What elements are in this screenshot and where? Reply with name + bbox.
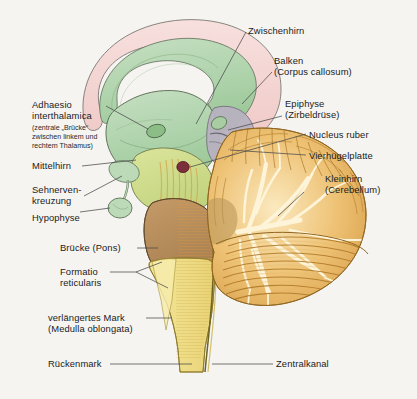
label-epiphyse-line1: Epiphyse <box>285 98 324 109</box>
label-epiphyse-line2: (Zirbeldrüse) <box>285 109 339 120</box>
label-nucleus-ruber: Nucleus ruber <box>309 129 369 140</box>
label-sehnerven-line1: Sehnerven- <box>32 184 81 195</box>
label-kleinhirn-line1: Kleinhirn <box>325 173 362 184</box>
label-formatio-line2: reticularis <box>60 277 101 288</box>
label-zentralkanal: Zentralkanal <box>276 358 329 369</box>
label-rueckenmark: Rückenmark <box>48 358 102 369</box>
label-adhaesio-sub3: rechtem Thalamus) <box>32 142 93 151</box>
label-zwischenhirn: Zwischenhirn <box>248 25 304 36</box>
label-balken-line1: Balken <box>274 55 303 66</box>
label-kleinhirn-line2: (Cerebellum) <box>325 184 380 195</box>
nucleus-ruber-structure <box>177 161 189 172</box>
label-mittelhirn: Mittelhirn <box>32 160 71 171</box>
hypophyse-structure <box>108 198 132 218</box>
label-formatio-line1: Formatio <box>60 266 98 277</box>
label-medulla-line2: (Medulla oblongata) <box>48 323 133 334</box>
label-bruecke-pons: Brücke (Pons) <box>60 242 121 253</box>
label-medulla-line1: verlängertes Mark <box>48 312 125 323</box>
label-balken-line2: (Corpus callosum) <box>274 66 352 77</box>
label-adhaesio-sub2: zwischen linkem und <box>32 133 97 142</box>
label-hypophyse: Hypophyse <box>32 212 80 223</box>
label-vierhuegelplatte: Vierhügelplatte <box>309 150 373 161</box>
label-sehnerven-line2: kreuzung <box>32 195 71 206</box>
label-adhaesio-line2: interthalamica <box>32 110 92 121</box>
label-adhaesio-sub1: (zentrale „Brücke“ <box>32 124 88 133</box>
label-adhaesio-line1: Adhaesio <box>32 99 72 110</box>
